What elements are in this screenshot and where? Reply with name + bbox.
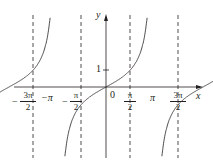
tangent-graph: y x 0 1 − 3π2 −π − π2 π2 π 3π2 — [0, 0, 213, 163]
tick-pi-2: π2 — [124, 91, 136, 112]
tick-3pi-2: 3π2 — [170, 91, 186, 112]
tick-neg-pi-2: π2 — [70, 91, 82, 112]
minus-sign-2: − — [62, 97, 68, 107]
x-axis-label: x — [196, 91, 200, 101]
tick-neg-pi: −π — [41, 93, 53, 103]
asymptotes — [33, 15, 178, 158]
y-axis-arrow — [104, 14, 108, 21]
x-axis-arrow — [196, 85, 203, 89]
origin-label: 0 — [110, 90, 115, 100]
minus-sign: − — [12, 97, 18, 107]
plot-area — [0, 0, 213, 163]
y-tick-label-1: 1 — [96, 64, 101, 74]
tick-pi: π — [150, 93, 155, 103]
tick-neg-3pi-2: 3π2 — [20, 91, 36, 112]
y-axis-label: y — [96, 10, 100, 20]
